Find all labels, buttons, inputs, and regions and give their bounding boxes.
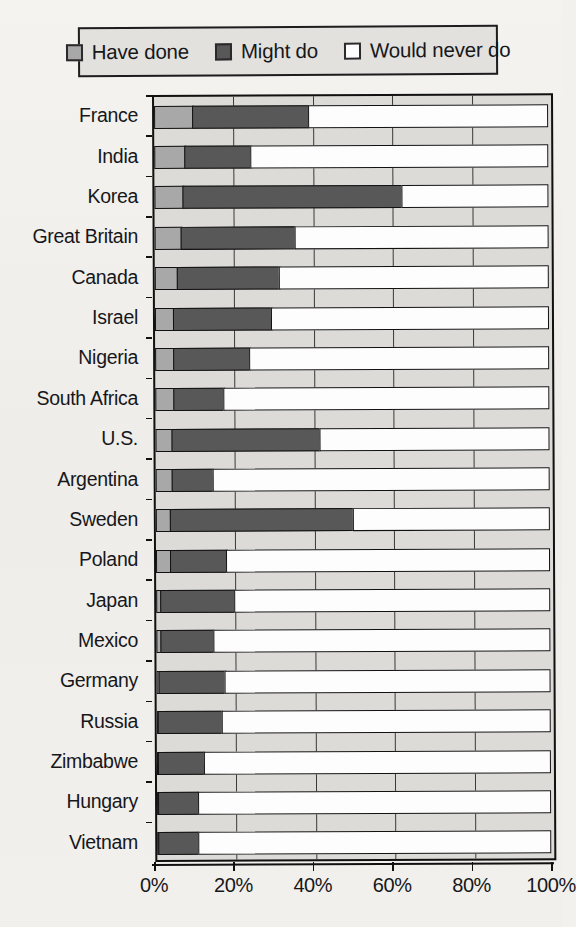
bar-row xyxy=(156,467,549,492)
bar-segment-have xyxy=(155,348,175,371)
y-axis-tick xyxy=(146,741,152,743)
y-axis-label: South Africa xyxy=(36,386,138,409)
bar-segment-have xyxy=(154,105,194,128)
bar-segment-might xyxy=(158,792,200,815)
x-axis-label: 80% xyxy=(452,874,491,897)
legend-item-would-never-do: Would never do xyxy=(344,38,511,63)
y-axis-tick xyxy=(146,378,152,380)
bar-segment-never xyxy=(212,467,550,491)
y-axis-label: Canada xyxy=(71,265,138,288)
x-axis-tick xyxy=(233,862,235,871)
bar-segment-never xyxy=(221,709,551,733)
bar-row xyxy=(154,185,547,210)
bar-segment-never xyxy=(213,629,551,653)
bar-segment-might xyxy=(158,832,200,855)
bar-segment-never xyxy=(235,588,551,612)
bar-segment-might xyxy=(170,549,228,572)
bar-segment-never xyxy=(319,427,549,451)
x-axis-tick xyxy=(313,862,315,871)
y-axis-label: Great Britain xyxy=(32,225,138,248)
bar-segment-never xyxy=(401,185,548,209)
y-axis-tick xyxy=(146,176,152,178)
bar-rows xyxy=(154,95,554,860)
bar-segment-might xyxy=(183,185,403,209)
legend-label-have-done: Have done xyxy=(92,40,190,65)
bar-row xyxy=(157,750,550,775)
bar-row xyxy=(155,346,548,371)
y-axis-label: Nigeria xyxy=(78,346,138,369)
plot-area xyxy=(152,93,556,862)
y-axis-label: Japan xyxy=(86,588,138,611)
bar-row xyxy=(157,709,550,734)
y-axis-tick xyxy=(146,701,152,703)
legend-swatch-have-done xyxy=(66,44,83,61)
bar-segment-might xyxy=(157,711,223,734)
bar-segment-might xyxy=(174,388,226,411)
legend-item-have-done: Have done xyxy=(66,40,190,65)
bar-segment-have xyxy=(155,429,173,452)
bar-segment-might xyxy=(177,267,280,290)
bar-segment-might xyxy=(184,146,252,169)
y-axis-tick xyxy=(146,499,152,501)
x-axis-label: 0% xyxy=(140,874,168,897)
chart-legend: Have done Might do Would never do xyxy=(78,25,498,78)
x-axis-tick xyxy=(472,862,474,871)
bar-segment-never xyxy=(308,104,548,128)
bar-segment-never xyxy=(271,306,549,330)
legend-swatch-would-never-do xyxy=(344,42,361,59)
x-axis-label: 40% xyxy=(293,874,332,897)
bar-segment-never xyxy=(226,548,550,572)
bar-segment-never xyxy=(198,831,551,856)
y-axis-tick xyxy=(146,579,152,581)
x-axis-label: 100% xyxy=(526,874,576,897)
bar-row xyxy=(155,225,548,250)
y-axis-label: India xyxy=(97,144,138,167)
y-axis-label: Argentina xyxy=(57,467,138,490)
x-axis-label: 60% xyxy=(373,874,412,897)
bar-row xyxy=(157,669,550,694)
y-axis-label: Hungary xyxy=(66,790,138,813)
bar-segment-might xyxy=(157,751,205,774)
bar-segment-have xyxy=(155,227,183,250)
bar-segment-might xyxy=(161,630,215,653)
bar-row xyxy=(154,144,547,169)
legend-label-might-do: Might do xyxy=(241,39,318,63)
bar-row xyxy=(156,508,549,533)
y-axis-label: Germany xyxy=(60,669,138,692)
bar-segment-might xyxy=(170,508,355,532)
bar-segment-never xyxy=(224,387,550,411)
bar-row xyxy=(155,387,548,412)
bar-segment-never xyxy=(353,508,550,532)
y-axis-label: Zimbabwe xyxy=(50,750,138,773)
bar-segment-might xyxy=(159,671,227,694)
y-axis-tick xyxy=(146,135,152,137)
x-axis-labels: 0%20%40%60%80%100% xyxy=(152,866,553,906)
legend-swatch-might-do xyxy=(215,43,232,60)
y-axis-tick xyxy=(146,539,152,541)
bar-segment-never xyxy=(250,144,548,168)
bar-row xyxy=(157,790,550,815)
bar-segment-might xyxy=(181,226,296,250)
bar-segment-have xyxy=(155,267,179,290)
bar-segment-might xyxy=(172,469,214,492)
y-axis-tick xyxy=(146,822,152,824)
bar-segment-might xyxy=(172,428,321,452)
bar-segment-never xyxy=(249,346,549,370)
y-axis-tick xyxy=(146,660,152,662)
y-axis-tick xyxy=(146,216,152,218)
y-axis-label: Russia xyxy=(80,709,138,732)
x-axis-tick xyxy=(154,862,156,871)
y-axis-labels: FranceIndiaKoreaGreat BritainCanadaIsrae… xyxy=(0,95,146,862)
bar-segment-might xyxy=(161,590,237,613)
bar-row xyxy=(154,104,547,129)
y-axis-tick xyxy=(146,297,152,299)
bar-segment-never xyxy=(203,750,550,775)
y-axis-label: Korea xyxy=(87,184,138,207)
bar-row xyxy=(155,306,548,331)
y-axis-label: Sweden xyxy=(69,507,138,530)
bar-row xyxy=(156,588,549,613)
legend-item-might-do: Might do xyxy=(215,39,318,64)
y-axis-tick xyxy=(146,418,152,420)
legend-label-would-never-do: Would never do xyxy=(370,38,511,63)
